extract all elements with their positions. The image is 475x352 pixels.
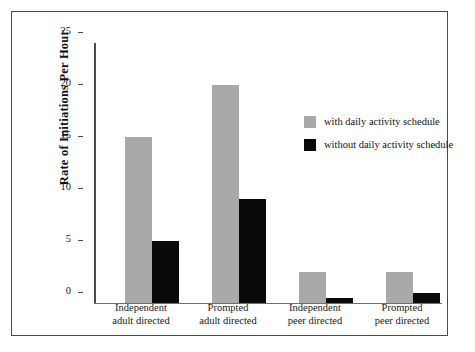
legend-label: with daily activity schedule [324, 117, 440, 128]
y-tick-mark [78, 84, 83, 85]
bar [299, 272, 326, 303]
y-tick-mark [78, 188, 83, 189]
y-tick-mark [78, 136, 83, 137]
y-tick-mark [78, 292, 83, 293]
y-tick-label: 5 [35, 234, 71, 245]
x-axis-category-label: Promptedpeer directed [347, 301, 457, 327]
legend-item: without daily activity schedule [304, 139, 453, 151]
plot-area [94, 43, 442, 303]
legend-swatch-icon [304, 116, 316, 128]
x-axis-category-label-line: Prompted [347, 301, 457, 314]
bar [152, 241, 179, 303]
bar [125, 137, 152, 303]
bar [212, 85, 239, 303]
x-axis-category-label-line: peer directed [347, 314, 457, 327]
figure-container: 0510152025 Rate of Initiations Per Hour … [0, 0, 475, 352]
legend-label: without daily activity schedule [324, 140, 453, 151]
bar [386, 272, 413, 303]
y-tick-mark [78, 32, 83, 33]
y-tick-label: 0 [35, 286, 71, 297]
y-tick-mark [78, 240, 83, 241]
bar [239, 199, 266, 303]
figure-frame: 0510152025 Rate of Initiations Per Hour … [11, 11, 448, 336]
legend-swatch-icon [304, 139, 316, 151]
y-axis-label: Rate of Initiations Per Hour [57, 18, 72, 198]
legend-item: with daily activity schedule [304, 116, 453, 128]
chart-legend: with daily activity schedulewithout dail… [304, 116, 453, 162]
